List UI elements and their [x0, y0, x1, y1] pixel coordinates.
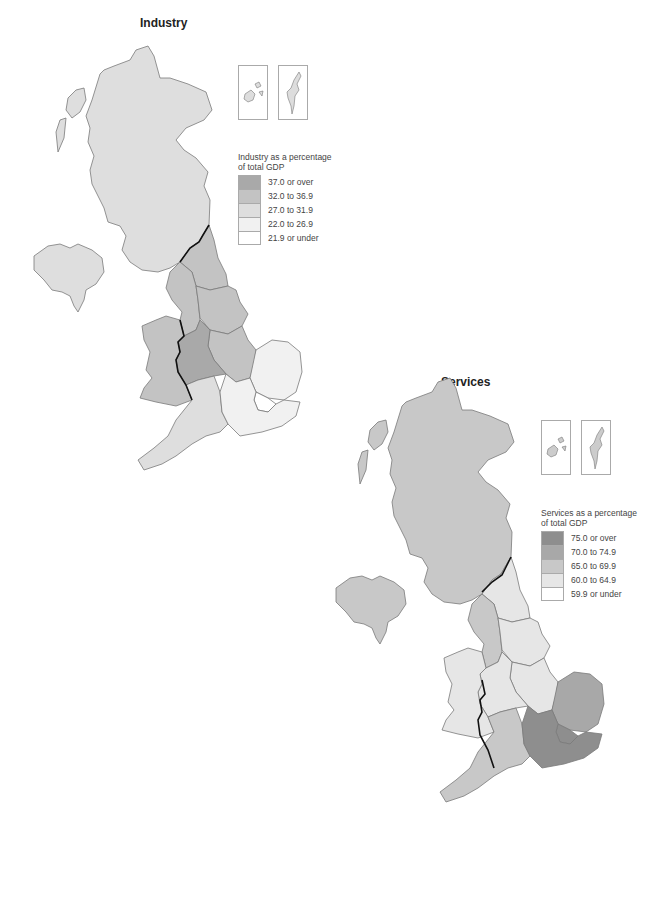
region-northern-ireland — [336, 576, 406, 644]
region-scotland — [358, 378, 514, 604]
region-east — [552, 672, 604, 732]
services-map-svg — [0, 0, 658, 919]
